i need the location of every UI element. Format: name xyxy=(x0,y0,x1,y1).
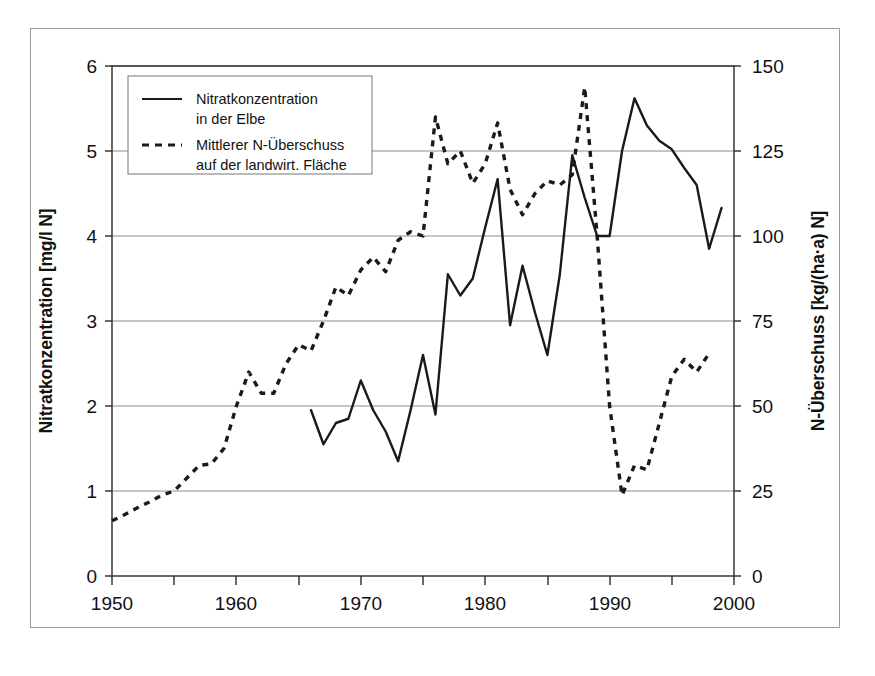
y-right-tick-labels: 150 125 100 75 50 25 0 xyxy=(752,56,784,587)
y-left-label-6: 6 xyxy=(86,56,97,77)
x-label-1960: 1960 xyxy=(215,593,257,614)
legend-entry-1-line1: Mittlerer N-Überschuss xyxy=(196,136,344,153)
x-tick-labels: 1950 1960 1970 1980 1990 2000 xyxy=(91,593,755,614)
x-label-2000: 2000 xyxy=(713,593,755,614)
chart-canvas: 6 5 4 3 2 1 0 150 125 100 75 50 25 0 195… xyxy=(0,0,875,676)
y-right-label-100: 100 xyxy=(752,226,784,247)
y-left-label-2: 2 xyxy=(86,396,97,417)
y-left-ticks xyxy=(105,66,112,576)
y-right-label-25: 25 xyxy=(752,481,773,502)
figure-root: 6 5 4 3 2 1 0 150 125 100 75 50 25 0 195… xyxy=(0,0,875,676)
y-left-tick-labels: 6 5 4 3 2 1 0 xyxy=(86,56,97,587)
y-left-label-1: 1 xyxy=(86,481,97,502)
y-right-label-0: 0 xyxy=(752,566,763,587)
legend-entry-0-line1: Nitratkonzentration xyxy=(196,91,318,107)
y-right-label-150: 150 xyxy=(752,56,784,77)
y-left-label-5: 5 xyxy=(86,141,97,162)
x-label-1990: 1990 xyxy=(589,593,631,614)
caption-strip xyxy=(30,640,840,666)
y-right-label-75: 75 xyxy=(752,311,773,332)
y-left-label-0: 0 xyxy=(86,566,97,587)
legend-entry-1-line2: auf der landwirt. Fläche xyxy=(196,157,347,173)
x-ticks xyxy=(112,576,734,585)
y-right-label-125: 125 xyxy=(752,141,784,162)
y-right-label-50: 50 xyxy=(752,396,773,417)
y-left-label-3: 3 xyxy=(86,311,97,332)
x-label-1950: 1950 xyxy=(91,593,133,614)
y-right-axis-title: N-Überschuss [kg/(ha·a) N] xyxy=(808,211,828,431)
y-right-ticks xyxy=(734,66,741,576)
x-label-1970: 1970 xyxy=(340,593,382,614)
y-left-label-4: 4 xyxy=(86,226,97,247)
series-nitrate-solid xyxy=(311,98,722,461)
x-label-1980: 1980 xyxy=(464,593,506,614)
legend-entry-0-line2: in der Elbe xyxy=(196,111,265,127)
chart-legend: Nitratkonzentration in der Elbe Mittlere… xyxy=(128,76,372,174)
y-left-axis-title: Nitratkonzentration [mg/l N] xyxy=(36,209,56,434)
nitrate-surplus-line-chart: 6 5 4 3 2 1 0 150 125 100 75 50 25 0 195… xyxy=(0,0,875,676)
